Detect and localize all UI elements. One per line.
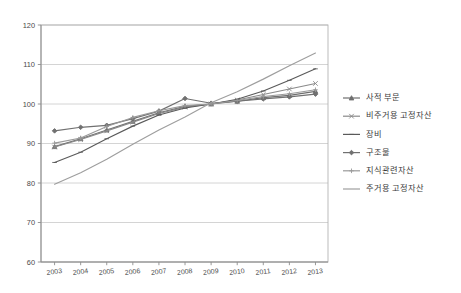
series-group: [52, 53, 318, 184]
y-tick-label-80: 80: [27, 179, 35, 188]
legend-label-5: 주거용 고정자산: [366, 183, 424, 193]
series-marker-3-0: [52, 129, 57, 134]
x-tick-label-2005: 2005: [98, 267, 114, 276]
x-tick-label-2008: 2008: [177, 267, 193, 276]
x-tick-label-2012: 2012: [281, 267, 297, 276]
y-tick-label-120: 120: [23, 21, 35, 30]
x-tick-label-2003: 2003: [46, 267, 62, 276]
legend-marker-0: [349, 96, 354, 100]
x-tick-label-2006: 2006: [124, 267, 140, 276]
legend-item-5[interactable]: 주거용 고정자산: [343, 183, 424, 193]
legend-label-0: 사적 부문: [366, 92, 400, 102]
series-marker-4-0: [52, 141, 57, 146]
legend-label-2: 장비: [366, 129, 382, 139]
legend-label-3: 구조물: [366, 148, 390, 157]
series-line-1: [55, 83, 316, 147]
series-marker-3-1: [78, 125, 83, 130]
chart-container: 60708090100110120 2003200420052006200720…: [0, 0, 461, 293]
series-line-5: [55, 53, 316, 184]
series-3: [52, 92, 318, 133]
x-axis: [41, 262, 328, 265]
x-tick-label-2013: 2013: [307, 267, 323, 276]
legend: 사적 부문비주거용 고정자산장비구조물지식관련자산주거용 고정자산: [343, 92, 432, 193]
legend-label-1: 비주거용 고정자산: [366, 110, 432, 120]
series-5: [55, 53, 316, 184]
series-marker-3-5: [183, 96, 188, 101]
legend-item-3[interactable]: 구조물: [343, 148, 390, 157]
x-tick-label-2004: 2004: [72, 267, 88, 276]
x-tick-label-2010: 2010: [229, 267, 245, 276]
y-tick-label-110: 110: [23, 60, 35, 69]
x-tick-label-2011: 2011: [255, 267, 271, 276]
x-axis-tick-labels: 2003200420052006200720082009201020112012…: [46, 267, 323, 276]
legend-item-2[interactable]: 장비: [343, 129, 382, 139]
x-tick-label-2009: 2009: [203, 267, 219, 276]
legend-item-1[interactable]: 비주거용 고정자산: [343, 110, 432, 120]
x-tick-label-2007: 2007: [150, 267, 166, 276]
y-tick-label-70: 70: [27, 218, 35, 227]
y-tick-label-90: 90: [27, 139, 35, 148]
y-axis-tick-labels: 60708090100110120: [23, 21, 35, 267]
series-1: [52, 81, 318, 149]
series-2: [52, 69, 318, 163]
y-tick-label-60: 60: [27, 258, 35, 267]
y-axis: [38, 25, 41, 262]
legend-marker-3: [349, 150, 354, 155]
y-tick-label-100: 100: [23, 100, 35, 109]
legend-label-4: 지식관련자산: [366, 165, 414, 175]
gridlines-group: [41, 25, 328, 262]
legend-item-4[interactable]: 지식관련자산: [343, 165, 414, 175]
legend-marker-4: [349, 169, 354, 174]
line-chart-figure: 60708090100110120 2003200420052006200720…: [0, 0, 461, 293]
series-line-2: [55, 69, 316, 163]
legend-item-0[interactable]: 사적 부문: [343, 92, 400, 102]
